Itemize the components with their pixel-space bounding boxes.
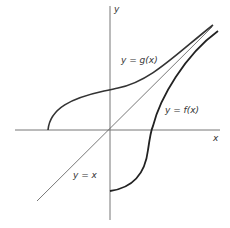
identity-line-label: y = x [73, 170, 97, 180]
g-curve-label: y = g(x) [121, 55, 158, 65]
x-axis-label: x [213, 133, 218, 143]
y-axis-label: y [114, 4, 119, 14]
inverse-function-diagram: y x y = g(x) y = f(x) y = x [0, 0, 230, 228]
f-curve-label: y = f(x) [165, 105, 199, 115]
